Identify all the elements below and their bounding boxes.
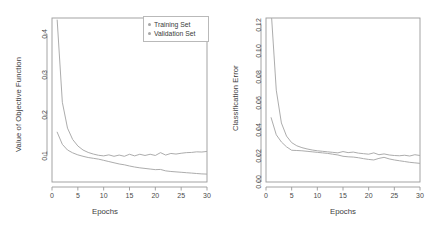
chart-legend: Training Set Validation Set xyxy=(143,16,209,42)
chart-panel-objective: Value of Objective Function Epochs Train… xyxy=(0,0,220,233)
y-tick-label: 0.4 xyxy=(41,29,48,39)
y-tick-label: 0.04 xyxy=(255,123,262,137)
x-tick-label: 20 xyxy=(365,192,373,199)
y-tick-label: 0.12 xyxy=(255,18,262,32)
error-plot-svg xyxy=(219,0,439,233)
x-tick-label: 10 xyxy=(100,192,108,199)
y-tick-label: 0.1 xyxy=(41,151,48,161)
y-axis-title-objective: Value of Objective Function xyxy=(14,57,23,152)
legend-label-validation: Validation Set xyxy=(154,29,195,38)
x-tick-label: 30 xyxy=(203,192,211,199)
x-tick-label: 30 xyxy=(416,192,424,199)
x-tick-label: 5 xyxy=(76,192,80,199)
y-tick-label: 0.08 xyxy=(255,70,262,84)
chart-panel-error xyxy=(219,0,439,233)
x-tick-label: 25 xyxy=(177,192,185,199)
x-tick-label: 5 xyxy=(290,192,294,199)
x-tick-label: 0 xyxy=(264,192,268,199)
y-tick-label: 0.00 xyxy=(255,175,262,189)
x-tick-label: 20 xyxy=(151,192,159,199)
legend-marker-dot-icon xyxy=(148,23,151,26)
x-tick-label: 15 xyxy=(126,192,134,199)
y-tick-label: 0.06 xyxy=(255,96,262,110)
legend-label-training: Training Set xyxy=(154,20,190,29)
x-axis-title-error: Epochs xyxy=(330,207,356,216)
legend-marker-dot-icon xyxy=(148,32,151,35)
x-tick-label: 15 xyxy=(339,192,347,199)
y-tick-label: 0.2 xyxy=(41,110,48,120)
x-axis-title-objective: Epochs xyxy=(92,207,118,216)
y-axis-title-error: Classification Error xyxy=(231,65,240,131)
x-tick-label: 25 xyxy=(390,192,398,199)
x-tick-label: 10 xyxy=(313,192,321,199)
legend-item-validation: Validation Set xyxy=(147,29,206,38)
dual-line-chart-figure: Value of Objective Function Epochs Train… xyxy=(0,0,439,233)
y-tick-label: 0.10 xyxy=(255,44,262,58)
legend-item-training: Training Set xyxy=(147,20,206,29)
x-tick-label: 0 xyxy=(50,192,54,199)
y-tick-label: 0.3 xyxy=(41,70,48,80)
y-tick-label: 0.02 xyxy=(255,149,262,163)
